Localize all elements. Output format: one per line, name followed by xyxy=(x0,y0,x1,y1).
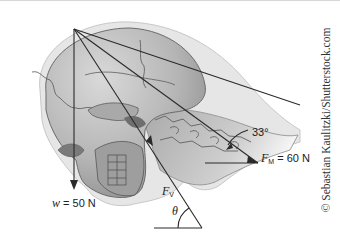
weight-arrowhead xyxy=(70,180,78,190)
vertebra-force-label: FV xyxy=(162,184,174,199)
photo-credit: © Sebastian Kaulitzki/Shutterstock.com xyxy=(320,28,332,213)
angle-33-label: 33° xyxy=(252,126,269,138)
theta-arc xyxy=(178,208,189,228)
theta-label: θ xyxy=(172,204,178,219)
muscle-force-label: FM = 60 N xyxy=(261,151,310,166)
weight-label: w = 50 N xyxy=(52,196,96,211)
skull-force-diagram xyxy=(0,0,340,241)
